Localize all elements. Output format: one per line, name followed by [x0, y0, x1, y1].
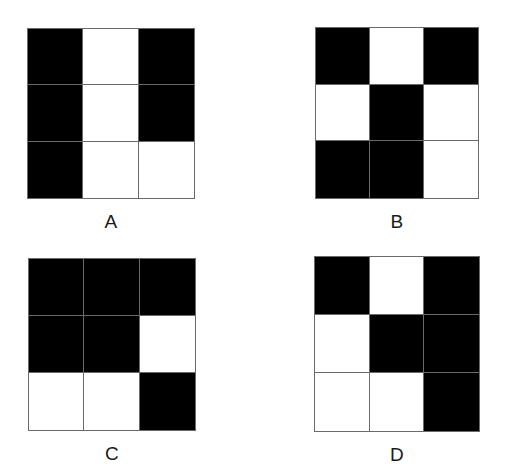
- grid-c-cell-r3c1: [29, 373, 84, 430]
- puzzle-canvas: A B C: [0, 0, 506, 476]
- grid-c[interactable]: [28, 258, 196, 431]
- grid-d-cell-r2c3: [424, 315, 479, 373]
- grid-a-cell-r2c1: [28, 85, 83, 141]
- grid-a-cell-r1c3: [139, 29, 194, 85]
- figure-label-d: D: [314, 445, 480, 464]
- grid-d-cell-r1c2: [370, 257, 425, 315]
- grid-a-cell-r1c2: [83, 29, 138, 85]
- grid-a-cell-r1c1: [28, 29, 83, 85]
- grid-b-cell-r1c3: [424, 28, 478, 85]
- figure-label-a: A: [27, 212, 195, 231]
- grid-a-cell-r2c2: [83, 85, 138, 141]
- grid-d-cell-r3c3: [424, 373, 479, 431]
- grid-c-cell-r1c1: [29, 259, 84, 316]
- grid-c-cell-r1c2: [84, 259, 139, 316]
- grid-a-cell-r2c3: [139, 85, 194, 141]
- grid-b-cell-r1c1: [316, 28, 370, 85]
- grid-c-cell-r1c3: [140, 259, 195, 316]
- figure-option-a[interactable]: A: [27, 28, 195, 199]
- grid-d-cell-r2c2: [370, 315, 425, 373]
- grid-d[interactable]: [314, 256, 480, 432]
- figure-label-b: B: [315, 212, 479, 231]
- grid-b-cell-r3c3: [424, 141, 478, 198]
- grid-a-cell-r3c3: [139, 142, 194, 198]
- grid-b[interactable]: [315, 27, 479, 199]
- grid-d-cell-r3c1: [315, 373, 370, 431]
- grid-c-cell-r2c2: [84, 316, 139, 373]
- grid-d-cell-r3c2: [370, 373, 425, 431]
- figure-option-d[interactable]: D: [314, 256, 480, 432]
- grid-b-cell-r2c2: [370, 85, 424, 142]
- grid-d-cell-r1c3: [424, 257, 479, 315]
- grid-b-cell-r2c3: [424, 85, 478, 142]
- grid-c-cell-r3c2: [84, 373, 139, 430]
- grid-c-cell-r2c3: [140, 316, 195, 373]
- grid-c-cell-r2c1: [29, 316, 84, 373]
- figure-option-c[interactable]: C: [28, 258, 196, 431]
- grid-a-cell-r3c2: [83, 142, 138, 198]
- grid-a[interactable]: [27, 28, 195, 199]
- grid-a-cell-r3c1: [28, 142, 83, 198]
- grid-b-cell-r2c1: [316, 85, 370, 142]
- grid-b-cell-r1c2: [370, 28, 424, 85]
- grid-c-cell-r3c3: [140, 373, 195, 430]
- figure-option-b[interactable]: B: [315, 27, 479, 199]
- grid-b-cell-r3c1: [316, 141, 370, 198]
- figure-label-c: C: [28, 444, 196, 463]
- grid-d-cell-r2c1: [315, 315, 370, 373]
- grid-d-cell-r1c1: [315, 257, 370, 315]
- grid-b-cell-r3c2: [370, 141, 424, 198]
